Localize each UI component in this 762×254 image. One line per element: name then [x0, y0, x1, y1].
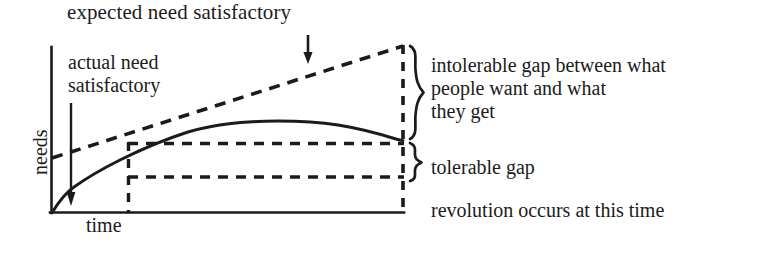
brace-intolerable-gap-icon [410, 46, 424, 139]
x-axis-label: time [86, 215, 122, 235]
brace-tolerable-gap-icon [410, 143, 422, 181]
expected-need-label: expected need satisfactory [67, 2, 291, 23]
arrow-down-expected-icon [303, 35, 312, 64]
revolution-annotation: revolution occurs at this time [431, 200, 664, 220]
y-axis-label: needs [30, 106, 50, 198]
actual-need-label: actual need satisfactory [68, 51, 160, 97]
revolution-gap-figure: expected need satisfactory actual need s… [0, 0, 762, 254]
tolerable-gap-annotation: tolerable gap [431, 157, 535, 177]
actual-need-curve [53, 121, 404, 212]
intolerable-gap-annotation: intolerable gap between what people want… [431, 54, 666, 123]
